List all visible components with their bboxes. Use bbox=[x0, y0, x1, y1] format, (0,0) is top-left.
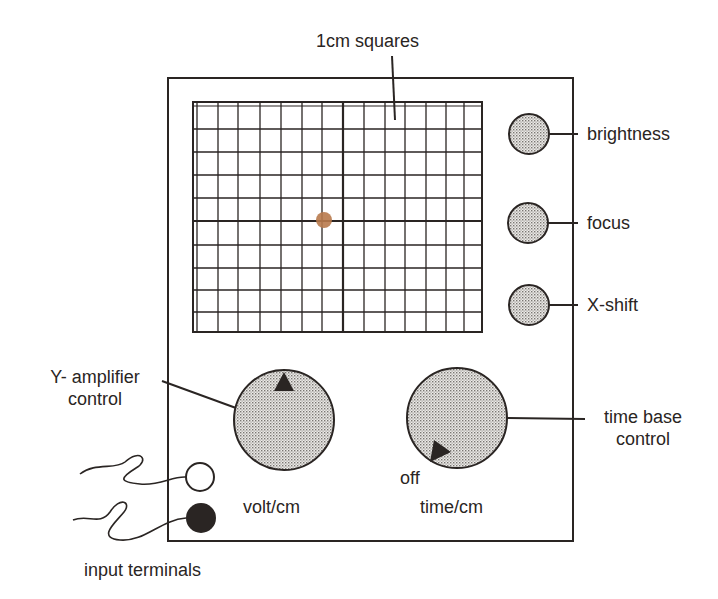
time-base-label-line1: time base bbox=[583, 406, 703, 428]
time-base-knob[interactable] bbox=[407, 368, 507, 468]
x-shift-label: X-shift bbox=[587, 294, 638, 316]
y-amplifier-label-line1: Y- amplifier bbox=[30, 366, 160, 388]
screen-graticule bbox=[193, 102, 482, 332]
y-amplifier-label-line2: control bbox=[30, 388, 160, 410]
focus-label: focus bbox=[587, 212, 630, 234]
time-base-label-line2: control bbox=[583, 428, 703, 450]
input-lead-1 bbox=[80, 456, 186, 485]
focus-knob[interactable] bbox=[508, 203, 548, 243]
brightness-knob[interactable] bbox=[509, 114, 549, 154]
input-terminal-positive[interactable] bbox=[186, 463, 214, 491]
input-terminal-ground[interactable] bbox=[186, 503, 216, 533]
y-amplifier-label: Y- amplifier control bbox=[30, 366, 160, 410]
x-shift-knob[interactable] bbox=[509, 285, 549, 325]
time-base-label: time base control bbox=[583, 406, 703, 450]
brightness-label: brightness bbox=[587, 123, 670, 145]
leader-y-amplifier bbox=[162, 381, 236, 408]
off-label: off bbox=[400, 467, 420, 489]
input-lead-2 bbox=[73, 502, 186, 540]
y-amplifier-knob[interactable] bbox=[234, 370, 334, 470]
electron-spot bbox=[316, 212, 332, 228]
time-per-cm-label: time/cm bbox=[420, 496, 483, 518]
volt-per-cm-label: volt/cm bbox=[243, 496, 300, 518]
input-terminals-label: input terminals bbox=[84, 559, 201, 581]
leader-time-base bbox=[507, 418, 585, 419]
screen-label: 1cm squares bbox=[316, 30, 419, 52]
